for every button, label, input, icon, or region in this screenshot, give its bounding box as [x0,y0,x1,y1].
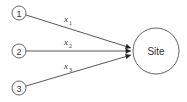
flow-diagram: x 1 x 2 x 3 1 2 3 Site [0,0,187,102]
edge-2-subscript: 2 [69,43,72,49]
edge-1: x 1 [26,14,131,48]
source-node-2-label: 2 [16,47,21,57]
edge-2-label: x [63,37,68,47]
source-node-3: 3 [12,81,26,95]
edge-3-label: x [63,61,68,71]
source-node-1-label: 1 [16,9,21,19]
site-node-label: Site [147,46,165,57]
source-node-2: 2 [12,44,26,58]
source-node-1: 1 [12,6,26,20]
edge-2: x 2 [26,37,131,51]
site-node: Site [133,28,179,74]
edge-1-label: x [63,14,68,24]
edge-3-subscript: 3 [69,67,72,73]
edge-3: x 3 [26,55,131,86]
source-node-3-label: 3 [16,84,21,94]
edge-1-subscript: 1 [69,20,72,26]
